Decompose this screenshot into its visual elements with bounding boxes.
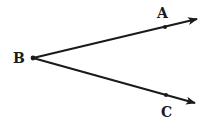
vertex-b-dot <box>31 56 36 61</box>
point-a-dot <box>163 25 167 29</box>
label-a: A <box>156 5 169 21</box>
label-b: B <box>13 50 25 66</box>
ray-ba <box>33 19 197 58</box>
ray-bc <box>33 58 195 103</box>
point-c-dot <box>164 93 168 97</box>
label-c: C <box>161 104 172 120</box>
angle-diagram: A B C <box>0 0 207 126</box>
angle-svg: A B C <box>0 0 207 126</box>
